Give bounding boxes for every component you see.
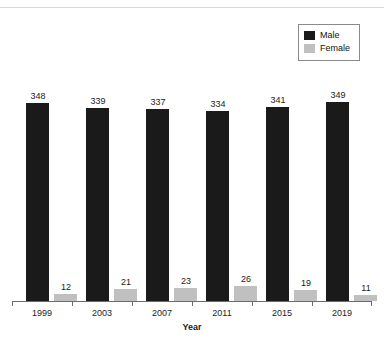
bar-groups: 348123392133723334263411934911 [12,70,372,302]
x-axis-tick [12,302,13,306]
x-axis-label-2007: 2007 [132,308,192,319]
legend-label-male: Male [320,30,340,41]
x-axis-line [12,301,372,302]
bar-group: 34812 [12,70,72,302]
chart-legend: Male Female [298,24,360,61]
x-axis-tick [371,302,372,306]
bar-male-2003[interactable] [86,108,109,301]
bar-group: 33426 [192,70,252,302]
x-axis-tick [312,302,313,306]
x-axis-tick [252,302,253,306]
grouped-bar-chart: Male Female 3481233921337233342634119349… [0,0,384,355]
bar-male-2015[interactable] [266,107,289,301]
legend-swatch-male-icon [304,31,315,40]
bar-value-female-2019: 11 [351,283,381,293]
legend-label-female: Female [320,43,350,54]
x-axis-label-2011: 2011 [192,308,252,319]
x-axis-label-1999: 1999 [12,308,72,319]
x-axis-label-2019: 2019 [312,308,372,319]
x-axis-tick-labels: 199920032007201120152019 [12,308,372,319]
x-axis-tick [192,302,193,306]
legend-swatch-female-icon [304,44,315,53]
x-axis-label-2003: 2003 [72,308,132,319]
bar-value-male-2015: 341 [263,95,293,105]
bar-value-male-2003: 339 [83,96,113,106]
bar-male-2011[interactable] [206,111,229,301]
bar-group: 34911 [312,70,372,302]
x-axis-tick [72,302,73,306]
bar-group: 33723 [132,70,192,302]
bar-group: 34119 [252,70,312,302]
plot-area: 348123392133723334263411934911 [12,70,372,302]
x-axis-label-2015: 2015 [252,308,312,319]
bar-male-2007[interactable] [146,109,169,301]
legend-item-female: Female [304,42,354,55]
x-axis-title: Year [12,322,372,332]
bar-value-male-1999: 348 [23,91,53,101]
bar-value-male-2011: 334 [203,99,233,109]
bar-value-male-2019: 349 [323,90,353,100]
bar-value-male-2007: 337 [143,97,173,107]
legend-item-male: Male [304,29,354,42]
bar-male-2019[interactable] [326,102,349,301]
bar-group: 33921 [72,70,132,302]
x-axis-tick [132,302,133,306]
bar-male-1999[interactable] [26,103,49,301]
